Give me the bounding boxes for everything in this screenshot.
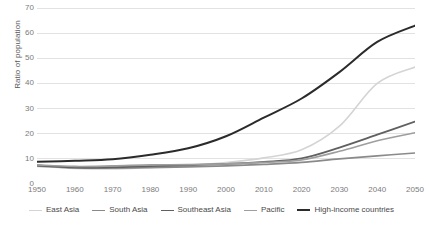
x-tick-label: 1990 bbox=[168, 186, 208, 194]
legend-label: High-income countries bbox=[314, 206, 394, 214]
y-tick-label: 20 bbox=[4, 130, 34, 138]
y-axis-ticks: 010203040506070 bbox=[0, 0, 34, 192]
x-tick-label: 1950 bbox=[17, 186, 57, 194]
x-tick-label: 1960 bbox=[55, 186, 95, 194]
legend-item[interactable]: East Asia bbox=[29, 206, 79, 214]
chart-legend: East AsiaSouth AsiaSoutheast AsiaPacific… bbox=[0, 206, 423, 214]
x-tick-label: 2000 bbox=[206, 186, 246, 194]
x-axis-ticks: 1950196019701980199020002010202020302040… bbox=[37, 186, 415, 200]
x-tick-label: 2020 bbox=[282, 186, 322, 194]
legend-item[interactable]: High-income countries bbox=[297, 206, 394, 214]
legend-item[interactable]: South Asia bbox=[92, 206, 147, 214]
plot-area bbox=[37, 8, 415, 184]
y-tick-label: 60 bbox=[4, 29, 34, 37]
plot-svg bbox=[37, 8, 415, 184]
x-tick-label: 2040 bbox=[357, 186, 397, 194]
x-tick-label: 2010 bbox=[244, 186, 284, 194]
legend-label: Pacific bbox=[261, 206, 285, 214]
x-tick-label: 2030 bbox=[319, 186, 359, 194]
legend-item[interactable]: Southeast Asia bbox=[161, 206, 231, 214]
legend-swatch-icon bbox=[161, 210, 174, 211]
legend-label: Southeast Asia bbox=[178, 206, 231, 214]
y-tick-label: 30 bbox=[4, 105, 34, 113]
y-tick-label: 10 bbox=[4, 155, 34, 163]
series-line bbox=[37, 67, 415, 169]
legend-item[interactable]: Pacific bbox=[244, 206, 285, 214]
y-tick-label: 70 bbox=[4, 4, 34, 12]
legend-label: South Asia bbox=[109, 206, 147, 214]
y-tick-label: 50 bbox=[4, 54, 34, 62]
legend-swatch-icon bbox=[244, 210, 257, 211]
legend-label: East Asia bbox=[46, 206, 79, 214]
y-tick-label: 40 bbox=[4, 79, 34, 87]
x-tick-label: 1970 bbox=[93, 186, 133, 194]
series-line bbox=[37, 133, 415, 167]
x-tick-label: 1980 bbox=[130, 186, 170, 194]
series-lines bbox=[37, 26, 415, 169]
legend-swatch-icon bbox=[297, 209, 310, 211]
legend-swatch-icon bbox=[92, 210, 105, 211]
legend-swatch-icon bbox=[29, 210, 42, 211]
x-tick-label: 2050 bbox=[395, 186, 429, 194]
